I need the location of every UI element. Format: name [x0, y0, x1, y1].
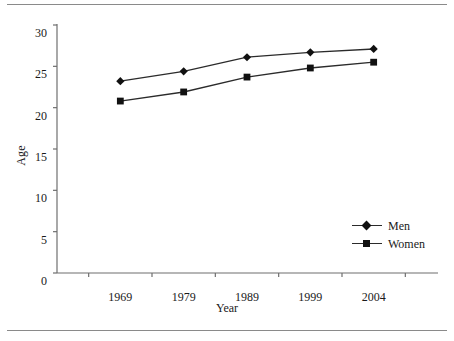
legend-label-women: Women: [388, 237, 425, 252]
y-tick-label: 15: [13, 151, 47, 163]
legend-item-women: Women: [352, 235, 425, 253]
y-tick-label: 25: [13, 68, 47, 80]
plot-area: [0, 8, 454, 326]
x-tick-label: 1979: [154, 291, 214, 303]
x-tick-label: 2004: [344, 291, 404, 303]
y-tick-label: 5: [13, 234, 47, 246]
y-tick-label: 20: [13, 110, 47, 122]
figure-page: Age Year 051015202530 196919791989199920…: [0, 0, 454, 341]
x-tick-label: 1969: [90, 291, 150, 303]
top-rule: [7, 4, 447, 5]
y-tick-label: 0: [13, 275, 47, 287]
x-tick-label: 1989: [217, 291, 277, 303]
y-tick-label: 10: [13, 192, 47, 204]
x-tick-label: 1999: [280, 291, 340, 303]
y-tick-label: 30: [13, 27, 47, 39]
diamond-marker-icon: [352, 220, 382, 232]
x-axis-title: Year: [0, 301, 454, 316]
legend-item-men: Men: [352, 217, 425, 235]
chart-legend: Men Women: [352, 217, 425, 253]
legend-label-men: Men: [388, 219, 410, 234]
line-chart: Age Year 051015202530 196919791989199920…: [0, 8, 454, 326]
square-marker-icon: [352, 238, 382, 250]
bottom-rule: [7, 330, 447, 331]
